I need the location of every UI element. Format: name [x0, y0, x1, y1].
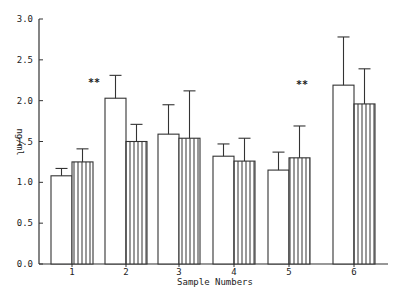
y-tick-label: 1.0 [17, 177, 33, 187]
x-tick-label: 6 [351, 267, 356, 277]
bar-open [333, 85, 354, 264]
bar-hatched [289, 158, 310, 264]
bars [51, 85, 375, 264]
bar-chart: 0.00.51.01.52.02.53.0123456 **** Sample … [0, 0, 403, 297]
y-axis-title: ng/ml [15, 128, 25, 155]
bar-open [158, 134, 179, 264]
y-tick-label: 2.5 [17, 55, 33, 65]
bar-open [268, 170, 289, 264]
x-tick-label: 4 [231, 267, 236, 277]
x-tick-label: 5 [286, 267, 291, 277]
bar-hatched [179, 138, 200, 264]
annotations: **** [88, 77, 308, 90]
x-tick-label: 1 [69, 267, 74, 277]
x-tick-label: 3 [176, 267, 181, 277]
bar-open [51, 176, 72, 264]
x-axis-title: Sample Numbers [177, 277, 253, 287]
y-tick-label: 0.5 [17, 218, 33, 228]
bar-open [105, 98, 126, 264]
bar-hatched [72, 162, 93, 264]
y-tick-label: 2.0 [17, 96, 33, 106]
significance-marker: ** [296, 79, 308, 90]
significance-marker: ** [88, 77, 100, 88]
bar-open [213, 156, 234, 264]
bar-hatched [354, 104, 375, 264]
y-tick-label: 3.0 [17, 14, 33, 24]
y-tick-label: 0.0 [17, 259, 33, 269]
bar-hatched [126, 142, 147, 265]
error-bars [56, 37, 371, 176]
x-tick-label: 2 [123, 267, 128, 277]
bar-hatched [234, 161, 255, 264]
